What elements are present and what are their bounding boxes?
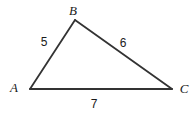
- vertex-label-a: A: [10, 81, 18, 94]
- side-length-label-ab: 5: [41, 36, 48, 48]
- triangle-side-bc: [75, 20, 172, 89]
- geometry-figure-canvas: A B C 5 6 7: [0, 0, 195, 116]
- triangle-side-ab: [30, 20, 75, 89]
- side-length-label-bc: 6: [120, 37, 127, 49]
- vertex-label-c: C: [180, 82, 189, 95]
- vertex-label-b: B: [69, 4, 77, 17]
- side-length-label-ca: 7: [91, 98, 98, 110]
